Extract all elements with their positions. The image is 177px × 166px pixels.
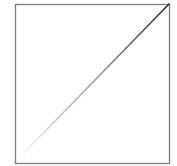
diagram-canvas xyxy=(0,0,177,166)
diagonal-line xyxy=(24,4,169,153)
diagram-svg xyxy=(0,0,177,166)
